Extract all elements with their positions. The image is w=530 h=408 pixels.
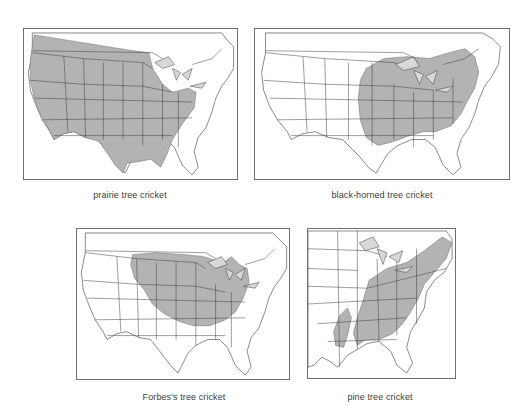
range-map-black-horned [254,28,510,180]
caption-black-horned: black-horned tree cricket [317,190,447,200]
caption-pine: pine tree cricket [330,392,430,402]
range-map-pine [307,228,456,379]
us-map-full [255,29,509,179]
us-map-eastern [308,229,455,378]
range-map-prairie [23,28,238,180]
caption-forbes: Forbes's tree cricket [124,392,244,402]
caption-prairie: prairie tree cricket [70,190,190,200]
us-map-full [24,29,237,179]
range-map-forbes [76,228,290,380]
us-map-full [77,229,289,379]
